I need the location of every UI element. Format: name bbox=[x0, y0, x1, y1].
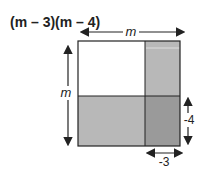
region-bottom-left bbox=[78, 96, 145, 146]
region-top-right bbox=[145, 41, 180, 96]
region-top-left bbox=[78, 41, 145, 96]
region-bottom-right bbox=[145, 96, 180, 146]
left-label: m bbox=[61, 85, 72, 100]
area-model-diagram: m m -4 -3 bbox=[0, 0, 206, 175]
top-label: m bbox=[126, 24, 137, 39]
right-label: -4 bbox=[184, 113, 195, 127]
bottom-label: -3 bbox=[159, 155, 170, 169]
